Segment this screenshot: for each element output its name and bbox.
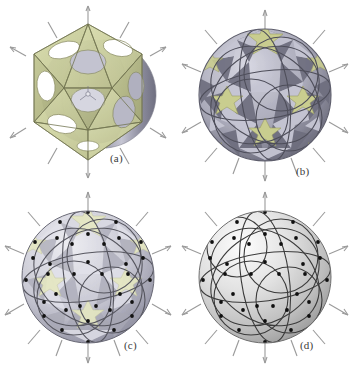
panel-label-c: (c) bbox=[124, 339, 137, 351]
panel-c bbox=[0, 187, 176, 374]
panel-d bbox=[177, 187, 353, 374]
figure-container: (a) bbox=[0, 0, 353, 374]
panel-b bbox=[177, 0, 353, 187]
panel-a bbox=[0, 0, 176, 187]
panel-label-b: (b) bbox=[296, 165, 309, 177]
panel-label-a: (a) bbox=[110, 152, 123, 164]
panel-label-d: (d) bbox=[300, 339, 313, 351]
